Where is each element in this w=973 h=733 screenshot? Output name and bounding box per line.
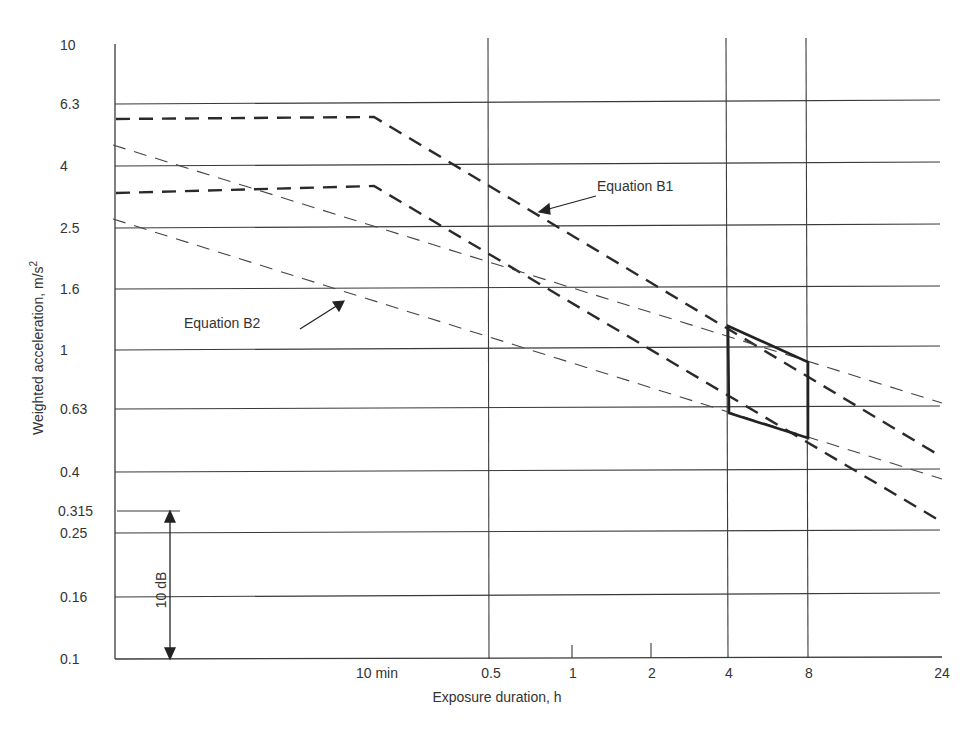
equation-b2-label: Equation B2	[184, 315, 260, 331]
y-tick-label: 2.5	[60, 220, 80, 236]
axes	[115, 44, 942, 659]
y-axis-title-sup: 2	[28, 260, 39, 266]
db-label: 10 dB	[153, 572, 169, 609]
y-tick-label: 1.6	[60, 281, 80, 297]
gridline-0.5h	[488, 38, 489, 659]
gridline-1.6	[115, 286, 940, 289]
x-tick-label: 10 min	[356, 665, 398, 681]
x-tick-label: 1	[569, 665, 577, 681]
gridline-0.25	[115, 530, 940, 533]
gridline-4	[115, 162, 940, 166]
y-tick-label: 0.315	[58, 503, 93, 519]
y-axis-title-text: Weighted acceleration, m/s	[30, 266, 46, 435]
gridline-1	[115, 346, 940, 350]
y-tick-labels: 106.342.51.610.630.40.3150.250.160.1	[58, 37, 93, 667]
x-axis-title: Exposure duration, h	[432, 689, 561, 705]
x-tick-label: 2	[648, 665, 656, 681]
gridline-6.3	[115, 100, 940, 104]
x-tick-label: 0.5	[481, 665, 501, 681]
y-tick-label: 0.1	[60, 651, 80, 667]
gridline-0.4	[115, 469, 940, 472]
equation-b2-lines	[113, 145, 942, 479]
equation-b1-label: Equation B1	[597, 178, 673, 194]
horizontal-gridlines	[115, 100, 940, 597]
y-tick-label: 0.25	[60, 525, 87, 541]
b2-arrow-line	[300, 305, 338, 329]
x-tick-label: 8	[805, 665, 813, 681]
annotation-arrows	[300, 196, 596, 329]
x-tick-label: 24	[934, 665, 950, 681]
gridline-0.16	[115, 593, 940, 597]
y-tick-label: 0.16	[60, 589, 87, 605]
x-tick-labels: 10 min0.5124824	[356, 665, 950, 681]
gridline-8h	[806, 38, 808, 658]
gridline-0.63	[115, 406, 940, 409]
x-axis	[115, 657, 942, 659]
x-tick-label: 4	[725, 665, 733, 681]
exposure-chart: 10 dB Equation B1 Equation B2 106.342.51…	[0, 0, 973, 733]
b2-upper-line	[113, 145, 942, 403]
y-tick-label: 6.3	[60, 96, 80, 112]
gridline-2.5	[115, 224, 940, 228]
y-tick-label: 0.63	[60, 401, 87, 417]
b1-arrowhead-icon	[539, 204, 550, 214]
y-axis-title: Weighted acceleration, m/s2	[28, 260, 46, 435]
db-arrowhead-down-icon	[165, 648, 175, 659]
caution-zone	[728, 326, 808, 438]
b2-arrowhead-icon	[333, 301, 344, 311]
y-tick-label: 4	[60, 158, 68, 174]
y-tick-label: 10	[60, 37, 76, 53]
db-arrowhead-up-icon	[165, 511, 175, 522]
y-tick-label: 1	[60, 342, 68, 358]
b1-arrow-line	[545, 196, 596, 210]
y-tick-label: 0.4	[60, 464, 80, 480]
